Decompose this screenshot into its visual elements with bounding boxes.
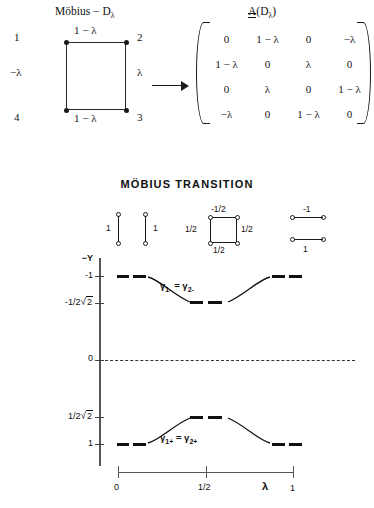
- adjacency-matrix: 0 1 − λ 0 −λ 1 − λ 0 λ 0 0 λ 0 1 − λ −λ …: [196, 22, 371, 127]
- mini-graph-1-edge: [118, 216, 119, 242]
- mini-graph-3-label-left: 1/2: [185, 224, 197, 234]
- matrix-table: 0 1 − λ 0 −λ 1 − λ 0 λ 0 0 λ 0 1 − λ −λ …: [206, 26, 370, 126]
- mini-graph-4-label-top: -1: [303, 204, 311, 214]
- x-tick-label-0: 0: [114, 482, 119, 492]
- matrix-row: 1 − λ 0 λ 0: [206, 51, 370, 76]
- square-edges: [66, 42, 126, 110]
- curve-upper-right-branch: [228, 277, 270, 302]
- matrix-cell: −λ: [206, 101, 247, 126]
- graph-vertex-label-2: 2: [137, 31, 143, 43]
- vertex-dash-lower-2: [208, 416, 222, 419]
- matrix-title-A: A: [248, 5, 256, 17]
- graph-vertex-label-3: 3: [137, 111, 143, 123]
- graph-node-2: [124, 40, 129, 45]
- mini-graph-4-edge-top: [294, 217, 323, 218]
- plateau-dash-lower-left-2: [133, 443, 146, 446]
- mini-graph-3-label-top: -1/2: [211, 204, 226, 214]
- matrix-cell: 0: [247, 51, 288, 76]
- mini-graph-3: -1/2 1/2 1/2 1/2: [186, 202, 262, 256]
- matrix-cell: −λ: [329, 26, 370, 51]
- mobius-square-graph: 1 2 3 4 1 − λ −λ λ 1 − λ: [38, 28, 143, 133]
- mini-graph-3-node-br: [235, 241, 240, 246]
- vertex-dash-upper-1: [190, 301, 203, 304]
- graph-node-1: [64, 40, 69, 45]
- mini-graph-3-square: [210, 217, 237, 243]
- vertex-dash-lower-1: [190, 416, 203, 419]
- graph-edge-label-bottom: 1 − λ: [74, 112, 97, 124]
- curve-label-plus: γ1+ = γ2+: [160, 432, 197, 445]
- curve-lower-right-branch: [228, 418, 270, 443]
- plateau-dash-lower-right-1: [272, 443, 285, 446]
- plateau-dash-lower-left-1: [117, 443, 129, 446]
- matrix-cell: λ: [247, 76, 288, 101]
- matrix-cell: 1 − λ: [206, 51, 247, 76]
- mini-graph-2-edge: [145, 216, 146, 242]
- mini-graph-3-node-tr: [235, 215, 240, 220]
- arrow-head: [181, 81, 189, 91]
- graph-title: Möbius − Dλ: [55, 5, 115, 20]
- x-tick-label-half: 1/2: [198, 482, 211, 492]
- x-tick-0: [118, 466, 119, 478]
- matrix-cell: 0: [206, 26, 247, 51]
- graph-edge-label-top: 1 − λ: [74, 24, 97, 36]
- graph-vertex-label-4: 4: [14, 111, 20, 123]
- matrix-row: −λ 0 1 − λ 0: [206, 101, 370, 126]
- plateau-dash-upper-left-1: [117, 275, 129, 278]
- mini-graph-3-node-tl: [208, 215, 213, 220]
- matrix-cell: 1 − λ: [247, 26, 288, 51]
- matrix-cell: 0: [288, 26, 329, 51]
- plateau-dash-upper-left-2: [133, 275, 146, 278]
- mobius-transition-plot: −Y -1 -1/2√2 0 1/2√2 1 γ1- =: [0, 250, 374, 508]
- graph-title-subscript: λ: [111, 11, 115, 20]
- plateau-dash-upper-right-2: [289, 275, 302, 278]
- mini-graph-1-edge-label: 1: [106, 223, 111, 233]
- mini-graph-4: -1 1: [290, 202, 350, 256]
- matrix-cell: 0: [206, 76, 247, 101]
- x-tick-label-1: 1: [290, 483, 295, 493]
- graph-vertex-label-1: 1: [14, 31, 20, 43]
- x-tick-half: [206, 466, 207, 478]
- mini-graph-3-label-right: 1/2: [241, 224, 253, 234]
- plateau-dash-upper-right-1: [272, 275, 285, 278]
- matrix-cell: λ: [288, 51, 329, 76]
- plateau-dash-lower-right-2: [289, 443, 302, 446]
- x-axis-title: λ: [262, 480, 268, 492]
- matrix-row: 0 λ 0 1 − λ: [206, 76, 370, 101]
- matrix-cell: 0: [288, 76, 329, 101]
- matrix-cell: 0: [329, 51, 370, 76]
- mini-graph-1: 1: [104, 212, 134, 248]
- mini-graph-2: 1: [137, 212, 167, 248]
- vertex-dash-upper-2: [208, 301, 222, 304]
- graph-edge-label-left: −λ: [10, 66, 22, 78]
- x-tick-1: [293, 466, 294, 478]
- implies-arrow-icon: [152, 80, 192, 92]
- matrix-cell: 0: [329, 101, 370, 126]
- matrix-cell: 0: [247, 101, 288, 126]
- graph-to-matrix-section: Möbius − Dλ A(Dλ) 1 2 3 4 1 − λ −λ λ 1 −…: [0, 0, 374, 150]
- curve-label-minus: γ1- = γ2-: [160, 280, 194, 293]
- matrix-cell: 1 − λ: [329, 76, 370, 101]
- matrix-title-close: ): [272, 5, 276, 17]
- matrix-cell: 1 − λ: [288, 101, 329, 126]
- mini-graph-2-edge-label: 1: [153, 223, 158, 233]
- transition-title: MÖBIUS TRANSITION: [0, 178, 374, 190]
- graph-node-3: [124, 108, 129, 113]
- mini-graph-4-edge-bottom: [294, 239, 323, 240]
- graph-node-4: [64, 108, 69, 113]
- matrix-title-open: (D: [256, 5, 268, 17]
- graph-title-text: Möbius − D: [55, 5, 111, 17]
- graph-edge-label-right: λ: [137, 66, 142, 78]
- matrix-row: 0 1 − λ 0 −λ: [206, 26, 370, 51]
- matrix-title: A(Dλ): [248, 5, 276, 20]
